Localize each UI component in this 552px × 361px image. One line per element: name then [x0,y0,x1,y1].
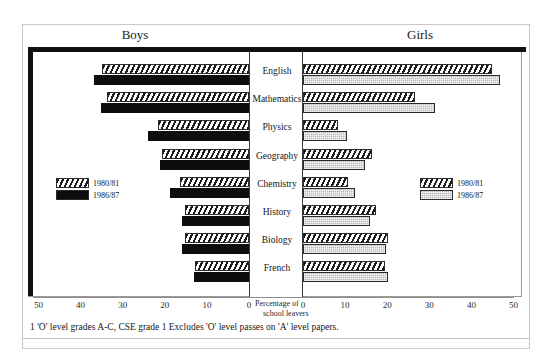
bar-boys-english-1980-81 [102,64,249,74]
tick-girls-30: 30 [418,300,440,310]
legend-swatch-boys-1980-81 [56,178,89,188]
category-label-mathematics: Mathematics [250,94,304,104]
bar-boys-chemistry-1986-87 [170,188,249,198]
bar-boys-history-1980-81 [185,205,249,215]
bar-girls-physics-1980-81 [303,120,338,130]
tick-boys-30: 30 [112,300,134,310]
scan-artifact-text [6,0,206,9]
axis-horizontal [33,297,514,298]
category-label-history: History [250,207,304,217]
axis-baseline-boys [249,52,250,297]
legend-label-girls-1986-87: 1986/87 [457,191,483,200]
category-label-chemistry: Chemistry [250,179,304,189]
legend-boys: 1980/811986/87 [56,178,146,203]
axis-caption-line1: Percentage of [255,299,299,308]
bar-girls-chemistry-1980-81 [303,177,348,187]
legend-swatch-girls-1986-87 [420,190,453,200]
footnote-rule [23,338,529,339]
bar-boys-chemistry-1980-81 [180,177,249,187]
category-label-biology: Biology [250,235,304,245]
tick-girls-10: 10 [334,300,356,310]
bar-boys-physics-1980-81 [158,120,249,130]
axis-baseline-girls [302,52,303,297]
category-label-column: EnglishMathematicsPhysicsGeographyChemis… [249,52,303,297]
bar-boys-mathematics-1980-81 [107,92,249,102]
tick-girls-40: 40 [460,300,482,310]
chart-page: Boys Girls EnglishMathematicsPhysicsGeog… [0,0,552,361]
plot-panel-edge-right [521,52,522,297]
bar-girls-french-1986-87 [303,272,388,282]
bar-girls-french-1980-81 [303,261,385,271]
bar-girls-chemistry-1986-87 [303,188,355,198]
axis-caption-line2: school leavers [255,309,325,319]
category-label-french: French [250,263,304,273]
bar-boys-biology-1986-87 [182,244,249,254]
bar-boys-history-1986-87 [182,216,249,226]
bar-girls-geography-1986-87 [303,160,365,170]
bar-girls-english-1980-81 [303,64,492,74]
bar-girls-biology-1980-81 [303,233,388,243]
bar-boys-french-1986-87 [194,272,249,282]
tick-boys-10: 10 [196,300,218,310]
bar-boys-biology-1980-81 [185,233,249,243]
legend-girls: 1980/811986/87 [420,178,515,203]
axis-caption: Percentage of school leavers [255,299,325,318]
bar-boys-geography-1986-87 [160,160,249,170]
bar-girls-english-1986-87 [303,75,500,85]
bar-boys-physics-1986-87 [148,131,249,141]
legend-label-boys-1986-87: 1986/87 [93,191,119,200]
panel-title-girls: Girls [370,27,470,43]
footnote: 1 'O' level grades A-C, CSE grade 1 Excl… [30,322,500,332]
bar-boys-mathematics-1986-87 [101,103,249,113]
legend-swatch-girls-1980-81 [420,178,453,188]
legend-label-boys-1980-81: 1980/81 [93,179,119,188]
bar-girls-biology-1986-87 [303,244,386,254]
bar-girls-history-1980-81 [303,205,376,215]
legend-label-girls-1980-81: 1980/81 [457,179,483,188]
category-label-geography: Geography [250,151,304,161]
legend-swatch-boys-1986-87 [56,190,89,200]
bar-boys-geography-1980-81 [162,149,249,159]
bar-girls-history-1986-87 [303,216,370,226]
bar-boys-french-1980-81 [195,261,249,271]
bar-boys-english-1986-87 [94,75,249,85]
tick-boys-20: 20 [154,300,176,310]
bar-girls-mathematics-1986-87 [303,103,435,113]
tick-girls-20: 20 [376,300,398,310]
category-label-physics: Physics [250,122,304,132]
panel-title-boys: Boys [85,27,185,43]
tick-boys-40: 40 [70,300,92,310]
bar-girls-mathematics-1980-81 [303,92,415,102]
tick-girls-50: 50 [503,300,525,310]
category-label-english: English [250,66,304,76]
bar-girls-geography-1980-81 [303,149,372,159]
tick-boys-50: 50 [28,300,50,310]
bar-girls-physics-1986-87 [303,131,347,141]
